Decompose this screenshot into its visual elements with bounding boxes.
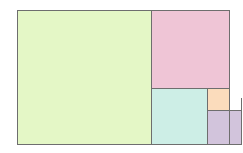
fibonacci-squares-diagram: [0, 0, 242, 153]
square-4: [208, 89, 230, 111]
square-5: [208, 111, 242, 145]
square-2: [152, 11, 230, 89]
square-1: [18, 11, 152, 145]
square-3: [152, 89, 208, 145]
square-7: [242, 99, 243, 145]
